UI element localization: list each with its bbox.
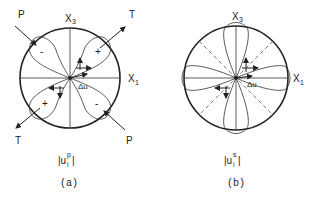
svg-text:|: | (72, 155, 75, 166)
x3-label-b: X (232, 11, 239, 22)
svg-text:1: 1 (300, 79, 304, 86)
svg-text:-: - (95, 98, 98, 109)
t-label-top: T (129, 9, 135, 20)
s-wave-diagram: X 3 X 1 Δu |u i s | (b) (182, 11, 304, 189)
svg-text:+: + (42, 98, 48, 109)
svg-text:+: + (95, 46, 101, 57)
svg-text:3: 3 (239, 16, 243, 23)
svg-text:i: i (67, 161, 69, 168)
amplitude-label-a: |u (58, 155, 66, 166)
svg-text:1: 1 (135, 79, 139, 86)
svg-text:3: 3 (72, 18, 76, 25)
x3-label-a: X (65, 13, 72, 24)
x1-label-b: X (293, 73, 300, 84)
p-arrow-bottom (104, 111, 125, 130)
svg-text:s: s (233, 151, 237, 158)
slip-label-b: Δu (247, 80, 257, 89)
svg-text:-: - (40, 46, 43, 57)
radiation-pattern-figure: X 3 X 1 P P T T - + + - Δu |u i p | (a) (0, 0, 313, 198)
amplitude-label-b: |u (224, 155, 232, 166)
svg-text:i: i (233, 161, 235, 168)
caption-b: (b) (227, 178, 245, 189)
p-label-top: P (18, 9, 25, 20)
p-wave-diagram: X 3 X 1 P P T T - + + - Δu |u i p | (a) (15, 9, 139, 189)
caption-a: (a) (60, 178, 78, 189)
svg-text:p: p (67, 151, 71, 159)
t-arrow-bottom (16, 108, 40, 128)
t-label-bottom: T (15, 135, 21, 146)
svg-text:|: | (238, 155, 241, 166)
p-arrow-top (15, 26, 36, 45)
slip-label-a: Δu (78, 82, 88, 91)
p-label-bottom: P (126, 135, 133, 146)
x1-label-a: X (128, 73, 135, 84)
